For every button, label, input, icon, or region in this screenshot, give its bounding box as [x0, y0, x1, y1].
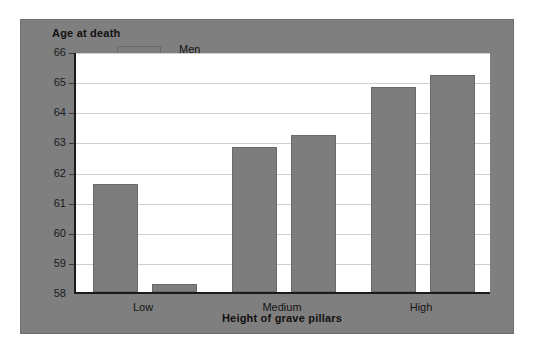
y-tick-label: 58	[22, 288, 66, 299]
gridline	[76, 53, 490, 54]
y-tick-mark	[69, 53, 74, 54]
y-tick-mark	[69, 83, 74, 84]
bar	[152, 284, 197, 292]
y-tick-mark	[69, 113, 74, 114]
plot-inner	[76, 53, 490, 292]
y-tick-mark	[69, 143, 74, 144]
y-tick-label: 62	[22, 168, 66, 179]
y-tick-mark	[69, 174, 74, 175]
y-tick-label: 63	[22, 137, 66, 148]
y-tick-mark	[69, 264, 74, 265]
y-tick-mark	[69, 204, 74, 205]
bar	[291, 135, 336, 292]
gridline	[76, 204, 490, 205]
bar	[93, 184, 138, 292]
bar	[232, 147, 277, 292]
y-tick-label: 60	[22, 228, 66, 239]
gridline	[76, 174, 490, 175]
bar	[371, 87, 416, 292]
y-tick-label: 64	[22, 107, 66, 118]
gridline	[76, 264, 490, 265]
y-tick-label: 65	[22, 77, 66, 88]
y-tick-label: 61	[22, 198, 66, 209]
plot-area	[74, 53, 490, 294]
gridline	[76, 83, 490, 84]
x-tick-label: Low	[93, 301, 193, 313]
gridline	[76, 113, 490, 114]
gridline	[76, 234, 490, 235]
x-tick-label: High	[371, 301, 471, 313]
bar	[430, 75, 475, 292]
x-tick-label: Medium	[232, 301, 332, 313]
gridline	[76, 143, 490, 144]
x-axis-title: Height of grave pillars	[74, 312, 490, 324]
y-tick-label: 66	[22, 47, 66, 58]
y-tick-mark	[69, 234, 74, 235]
y-tick-label: 59	[22, 258, 66, 269]
figure: Age at death MenWomen Height of grave pi…	[0, 0, 535, 348]
y-axis-title: Age at death	[52, 27, 120, 39]
chart-panel: Age at death MenWomen Height of grave pi…	[20, 19, 514, 334]
